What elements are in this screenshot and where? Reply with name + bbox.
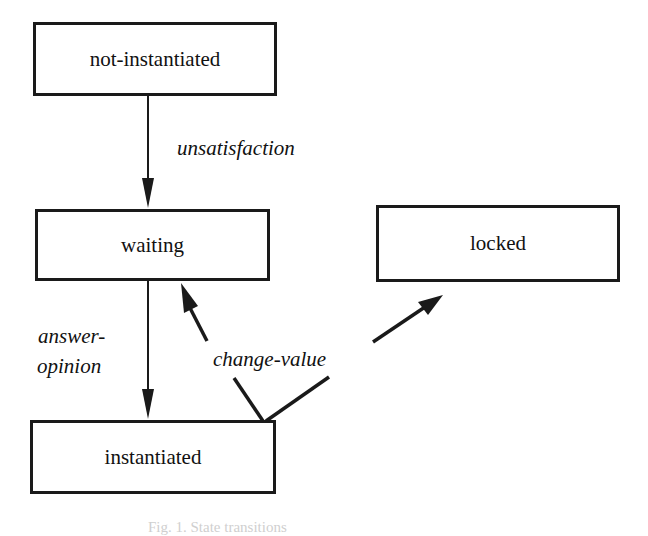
state-label: instantiated [105, 445, 202, 470]
state-not-instantiated: not-instantiated [33, 22, 277, 96]
state-waiting: waiting [35, 209, 270, 281]
arrow-unsatisfaction [142, 96, 154, 208]
arrow-answer-opinion [142, 281, 154, 419]
figure-caption: Fig. 1. State transitions [148, 519, 287, 536]
state-label: locked [470, 231, 526, 256]
state-label: not-instantiated [90, 47, 221, 72]
state-label: waiting [121, 233, 184, 258]
state-locked: locked [376, 205, 620, 282]
label-answer-opinion-line1: answer- [38, 319, 105, 353]
label-unsatisfaction: unsatisfaction [177, 131, 295, 165]
state-instantiated: instantiated [30, 420, 276, 494]
label-answer-opinion-line2: opinion [37, 349, 101, 383]
label-change-value: change-value [213, 342, 326, 376]
